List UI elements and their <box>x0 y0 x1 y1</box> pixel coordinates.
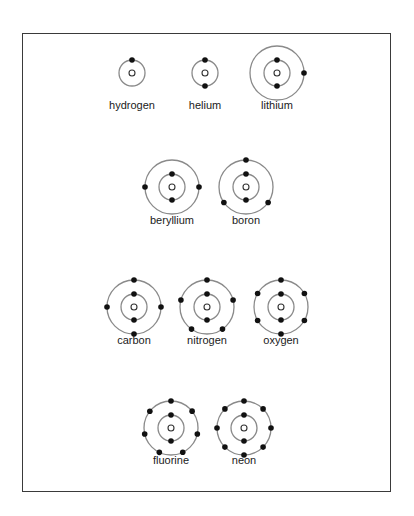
electron-icon <box>142 184 148 190</box>
electron-icon <box>278 277 284 283</box>
electron-icon <box>243 157 249 163</box>
electron-shell <box>254 280 308 334</box>
atom-lithium <box>250 46 307 100</box>
electron-icon <box>131 291 137 297</box>
electron-icon <box>168 398 174 404</box>
electron-icon <box>168 412 174 418</box>
nucleus-icon <box>168 425 174 431</box>
atom-hydrogen <box>119 57 145 86</box>
electron-icon <box>243 171 249 177</box>
electron-shell <box>250 46 304 100</box>
atom-label-nitrogen: nitrogen <box>187 334 227 346</box>
atom-label-neon: neon <box>232 454 256 466</box>
nucleus-icon <box>169 184 175 190</box>
electron-icon <box>129 57 135 63</box>
electron-icon <box>268 425 274 431</box>
electron-shell <box>194 294 220 320</box>
electron-shell <box>233 174 259 200</box>
electron-icon <box>104 304 110 310</box>
electron-shell <box>158 415 184 441</box>
electron-icon <box>260 444 266 450</box>
atom-label-beryllium: beryllium <box>150 214 194 226</box>
electron-icon <box>230 297 236 303</box>
electron-icon <box>142 431 148 437</box>
atom-label-carbon: carbon <box>117 334 151 346</box>
atom-beryllium <box>142 160 202 214</box>
electron-icon <box>243 197 249 203</box>
electron-icon <box>255 318 261 324</box>
atom-oxygen <box>254 277 308 337</box>
electron-shell <box>121 294 147 320</box>
electron-icon <box>302 291 308 297</box>
electron-icon <box>178 297 184 303</box>
electron-icon <box>158 304 164 310</box>
atom-helium <box>192 57 218 89</box>
atom-fluorine <box>142 398 200 455</box>
electron-shell <box>144 401 198 455</box>
electron-icon <box>147 408 153 414</box>
atom-boron <box>219 157 273 214</box>
electron-icon <box>260 406 266 412</box>
electron-icon <box>204 317 210 323</box>
atom-label-lithium: lithium <box>261 99 293 111</box>
atom-label-helium: helium <box>189 99 221 111</box>
electron-icon <box>202 57 208 63</box>
atom-label-hydrogen: hydrogen <box>109 99 155 111</box>
nucleus-icon <box>241 425 247 431</box>
atom-label-fluorine: fluorine <box>153 454 189 466</box>
electron-shell <box>107 280 161 334</box>
electron-shell <box>159 174 185 200</box>
electron-shell <box>145 160 199 214</box>
electron-icon <box>301 70 307 76</box>
nucleus-icon <box>129 70 135 76</box>
nucleus-icon <box>278 304 284 310</box>
electron-icon <box>169 171 175 177</box>
electron-icon <box>265 200 271 206</box>
electron-icon <box>222 406 228 412</box>
nucleus-icon <box>131 304 137 310</box>
electron-icon <box>214 425 220 431</box>
nucleus-icon <box>274 70 280 76</box>
electron-icon <box>278 291 284 297</box>
electron-icon <box>255 291 261 297</box>
electron-icon <box>274 83 280 89</box>
electron-icon <box>241 412 247 418</box>
atom-label-boron: boron <box>232 214 260 226</box>
electron-icon <box>278 317 284 323</box>
electron-icon <box>195 431 201 437</box>
electron-shell <box>231 415 257 441</box>
electron-icon <box>221 200 227 206</box>
electron-shell <box>192 60 218 86</box>
atom-label-oxygen: oxygen <box>263 334 298 346</box>
electron-icon <box>274 57 280 63</box>
electron-icon <box>202 83 208 89</box>
electron-shell <box>268 294 294 320</box>
nucleus-icon <box>202 70 208 76</box>
electron-icon <box>241 398 247 404</box>
atom-neon <box>214 398 274 458</box>
electron-icon <box>189 326 195 332</box>
electron-icon <box>169 197 175 203</box>
electron-icon <box>131 317 137 323</box>
nucleus-icon <box>204 304 210 310</box>
atom-carbon <box>104 277 164 337</box>
atom-nitrogen <box>178 277 236 334</box>
nucleus-icon <box>243 184 249 190</box>
electron-shell <box>119 60 145 86</box>
electron-icon <box>196 184 202 190</box>
electron-icon <box>168 438 174 444</box>
electron-icon <box>241 438 247 444</box>
electron-icon <box>220 326 226 332</box>
electron-icon <box>189 408 195 414</box>
electron-icon <box>131 277 137 283</box>
electron-shell <box>180 280 234 334</box>
electron-icon <box>222 444 228 450</box>
electron-shell <box>264 60 290 86</box>
electron-icon <box>204 277 210 283</box>
atoms-diagram <box>0 0 414 516</box>
electron-icon <box>204 291 210 297</box>
electron-shell <box>219 160 273 214</box>
electron-icon <box>302 318 308 324</box>
